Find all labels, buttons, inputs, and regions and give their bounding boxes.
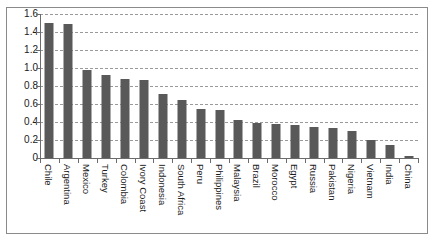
x-axis-label-slot: Morocco bbox=[267, 164, 286, 234]
x-axis-tick-label: Egypt bbox=[290, 164, 300, 188]
x-axis-tick-mark bbox=[267, 159, 268, 163]
x-axis-tick-labels: ChileArgentinaMexicoTurkeyColombiaIvory … bbox=[40, 164, 418, 234]
bar-series bbox=[40, 14, 418, 158]
x-axis-tick-mark bbox=[418, 159, 419, 163]
bar-slot bbox=[342, 14, 361, 158]
x-axis-tick-label: Ivory Coast bbox=[138, 164, 148, 212]
x-axis-tick-mark bbox=[40, 159, 41, 163]
x-axis-tick-mark bbox=[324, 159, 325, 163]
bar[interactable] bbox=[328, 128, 337, 158]
x-axis-label-slot: Colombia bbox=[116, 164, 135, 234]
x-axis-label-slot: Brazil bbox=[248, 164, 267, 234]
x-axis-label-slot: Egypt bbox=[286, 164, 305, 234]
bar-slot bbox=[361, 14, 380, 158]
x-axis-tick-mark bbox=[399, 159, 400, 163]
bar[interactable] bbox=[347, 131, 356, 158]
x-axis-label-slot: Peru bbox=[191, 164, 210, 234]
x-axis-tick-label: Indonesia bbox=[157, 164, 167, 205]
y-axis-tick-label: 1.6 bbox=[4, 9, 38, 19]
x-axis-label-slot: Argentina bbox=[59, 164, 78, 234]
bar-slot bbox=[248, 14, 267, 158]
x-axis-tick-mark bbox=[191, 159, 192, 163]
y-axis-tick-label: 1.2 bbox=[4, 45, 38, 55]
bar-chart-figure: 1.61.41.21.00.80.60.40.20 ChileArgentina… bbox=[0, 0, 436, 246]
bar[interactable] bbox=[234, 120, 243, 158]
x-axis-tick-label: Morocco bbox=[271, 164, 281, 200]
x-axis-tick-mark bbox=[59, 159, 60, 163]
y-axis-tick-labels: 1.61.41.21.00.80.60.40.20 bbox=[0, 0, 38, 246]
y-axis-tick-label: 0.2 bbox=[4, 135, 38, 145]
bar[interactable] bbox=[215, 110, 224, 158]
bar-slot bbox=[135, 14, 154, 158]
bar[interactable] bbox=[45, 23, 54, 158]
x-axis-tick-label: China bbox=[403, 164, 413, 189]
x-axis-tick-label: Brazil bbox=[252, 164, 262, 188]
bar-slot bbox=[324, 14, 343, 158]
bar[interactable] bbox=[64, 24, 73, 158]
y-axis-tick-label: 1.0 bbox=[4, 63, 38, 73]
bar-slot bbox=[172, 14, 191, 158]
bar-slot bbox=[78, 14, 97, 158]
bar-slot bbox=[191, 14, 210, 158]
x-axis-tick-label: Nigeria bbox=[346, 164, 356, 194]
bar-slot bbox=[210, 14, 229, 158]
x-axis-tick-mark bbox=[210, 159, 211, 163]
bar[interactable] bbox=[196, 109, 205, 159]
x-axis-tick-mark bbox=[135, 159, 136, 163]
x-axis-tick-label: Colombia bbox=[120, 164, 130, 204]
x-axis-tick-label: Argentina bbox=[63, 164, 73, 205]
bar[interactable] bbox=[158, 94, 167, 158]
x-axis-tick-mark bbox=[116, 159, 117, 163]
x-axis-tick-label: Russia bbox=[309, 164, 319, 193]
x-axis-tick-label: Pakistan bbox=[327, 164, 337, 200]
bar[interactable] bbox=[385, 145, 394, 158]
y-axis-tick-label: 0.6 bbox=[4, 99, 38, 109]
x-axis-label-slot: Nigeria bbox=[342, 164, 361, 234]
x-axis-label-slot: South Africa bbox=[172, 164, 191, 234]
x-axis-label-slot: China bbox=[399, 164, 418, 234]
bar-slot bbox=[59, 14, 78, 158]
x-axis-tick-label: South Africa bbox=[176, 164, 186, 215]
bar[interactable] bbox=[121, 79, 130, 158]
x-axis-tick-mark bbox=[78, 159, 79, 163]
x-axis-label-slot: India bbox=[380, 164, 399, 234]
x-axis-label-slot: Mexico bbox=[78, 164, 97, 234]
x-axis-tick-mark bbox=[97, 159, 98, 163]
x-axis-tick-label: India bbox=[384, 164, 394, 185]
bar-slot bbox=[286, 14, 305, 158]
bar[interactable] bbox=[102, 75, 111, 158]
x-axis-tick-label: Peru bbox=[195, 164, 205, 184]
bar-slot bbox=[229, 14, 248, 158]
x-axis-label-slot: Ivory Coast bbox=[135, 164, 154, 234]
x-axis-tick-mark bbox=[286, 159, 287, 163]
x-axis-tick-label: Chile bbox=[44, 164, 54, 186]
y-axis-tick-label: 0.4 bbox=[4, 117, 38, 127]
x-axis-label-slot: Indonesia bbox=[153, 164, 172, 234]
bar[interactable] bbox=[139, 80, 148, 158]
bar-slot bbox=[305, 14, 324, 158]
x-axis-label-slot: Vietnam bbox=[361, 164, 380, 234]
bar-slot bbox=[40, 14, 59, 158]
y-axis-tick-label: 0.8 bbox=[4, 81, 38, 91]
bar[interactable] bbox=[310, 127, 319, 158]
x-axis-label-slot: Pakistan bbox=[324, 164, 343, 234]
x-axis-label-slot: Philippines bbox=[210, 164, 229, 234]
bar[interactable] bbox=[366, 140, 375, 158]
x-axis-tick-label: Turkey bbox=[101, 164, 111, 193]
x-axis-tick-label: Malaysia bbox=[233, 164, 243, 202]
x-axis-label-slot: Chile bbox=[40, 164, 59, 234]
x-axis-tick-label: Vietnam bbox=[365, 164, 375, 199]
bar[interactable] bbox=[404, 156, 413, 158]
bar-slot bbox=[380, 14, 399, 158]
bar[interactable] bbox=[83, 70, 92, 158]
bar[interactable] bbox=[272, 124, 281, 158]
bar[interactable] bbox=[177, 100, 186, 159]
bar-slot bbox=[267, 14, 286, 158]
x-axis-label-slot: Malaysia bbox=[229, 164, 248, 234]
bar-slot bbox=[97, 14, 116, 158]
x-axis-tick-mark bbox=[305, 159, 306, 163]
bar[interactable] bbox=[291, 125, 300, 158]
bar[interactable] bbox=[253, 123, 262, 158]
x-axis-tick-mark bbox=[342, 159, 343, 163]
bar-slot bbox=[116, 14, 135, 158]
